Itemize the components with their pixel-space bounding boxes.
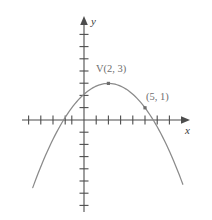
x-axis-label: x	[184, 124, 190, 136]
x-axis-arrow-icon	[181, 116, 190, 124]
vertex-label: V(2, 3)	[96, 63, 127, 75]
point-markers-group	[107, 82, 147, 110]
point-5-1-label: (5, 1)	[146, 91, 169, 103]
axes-group	[22, 16, 190, 212]
y-axis-arrow-icon	[80, 16, 88, 25]
parabola-figure: V(2, 3) (5, 1) x y	[0, 0, 212, 220]
y-axis-label: y	[90, 15, 96, 27]
point-5-1-marker	[143, 106, 146, 109]
coordinate-graph: V(2, 3) (5, 1) x y	[0, 0, 212, 220]
vertex-point-marker	[107, 82, 110, 85]
